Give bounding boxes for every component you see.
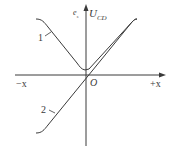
y-axis-label-ucd: UCD	[89, 8, 107, 22]
ucd-subscript: CD	[97, 14, 107, 22]
curve-2-leader	[49, 110, 55, 113]
origin-label: O	[90, 78, 97, 88]
ucd-label: U	[89, 7, 97, 19]
es-subscript: s	[77, 14, 79, 19]
y-axis-arrow-icon	[84, 4, 89, 11]
x-negative-label: −x	[16, 79, 27, 89]
characteristic-diagram	[0, 0, 173, 152]
y-axis-label-es: es	[73, 9, 79, 19]
x-axis-arrow-icon	[159, 73, 166, 78]
curve-2-label: 2	[41, 105, 46, 115]
curve-1-leader	[45, 32, 51, 36]
curve-1-label: 1	[38, 33, 43, 43]
x-positive-label: +x	[150, 79, 161, 89]
